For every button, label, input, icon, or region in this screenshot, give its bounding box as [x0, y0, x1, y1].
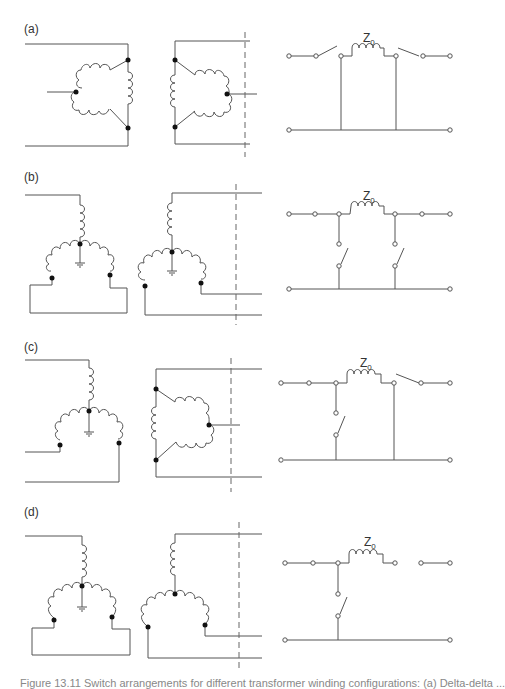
panel-a-secondary-delta: [171, 41, 258, 144]
panel-a-impedance-label: Z0: [363, 31, 375, 47]
panel-d-terminals: [283, 561, 452, 642]
panel-a-secondary-nodes: [173, 58, 230, 130]
panel-c-primary-wye: [25, 360, 123, 482]
panel-a-primary-nodes: [74, 58, 131, 131]
panel-b-impedance-label: Z0: [363, 189, 375, 205]
panel-c-secondary-delta: [152, 369, 263, 477]
panel-b-primary-wye: [25, 195, 127, 313]
figure-caption: Figure 13.11 Switch arrangements for dif…: [20, 677, 505, 689]
panel-d-primary-wye: [25, 536, 130, 655]
panel-d-equivalent-circuit: [286, 550, 448, 641]
panel-d-secondary-wye: [141, 534, 262, 658]
panel-b-secondary-wye: [138, 193, 262, 315]
panel-d-impedance-label: Z0: [364, 535, 376, 551]
panel-b-terminals: [287, 212, 452, 291]
panel-a-primary-delta: [25, 44, 133, 146]
panel-a-terminals: [287, 54, 452, 132]
panel-c-impedance-label: Z0: [360, 356, 372, 372]
panel-c-terminals: [279, 381, 452, 462]
